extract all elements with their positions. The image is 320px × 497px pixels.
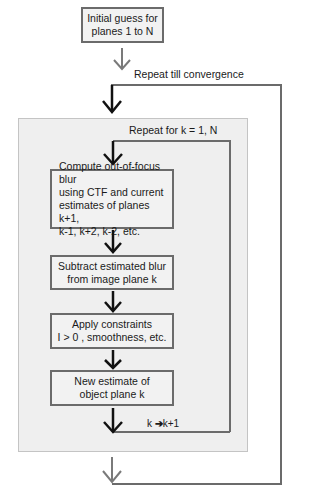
inner-loop-top-line — [113, 140, 230, 142]
step-apply-constraints: Apply constraints I > 0 , smoothness, et… — [50, 313, 174, 349]
step-subtract-blur: Subtract estimated blur from image plane… — [50, 255, 174, 290]
inner-loop-label: Repeat for k = 1, N — [129, 124, 217, 136]
inner-loop-bottom-line — [113, 431, 230, 433]
arrow-down-icon — [102, 85, 124, 115]
arrow-down-icon — [103, 230, 125, 254]
step-text: Subtract estimated blur from image plane… — [58, 260, 166, 286]
arrow-down-icon — [103, 350, 125, 370]
arrow-down-icon — [102, 457, 124, 485]
outer-loop-label: Repeat till convergence — [134, 68, 244, 80]
outer-loop-right-line — [280, 84, 282, 484]
outer-loop-top-line — [111, 84, 282, 86]
step-text: New estimate of object plane k — [74, 375, 149, 401]
increment-label: k ➔k+1 — [147, 418, 179, 429]
right-arrow-icon: ➔ — [155, 418, 163, 429]
increment-next: k+1 — [163, 418, 179, 429]
arrow-down-icon — [103, 291, 125, 313]
arrow-down-icon — [103, 408, 125, 434]
arrow-down-icon — [112, 48, 132, 72]
start-box: Initial guess for planes 1 to N — [81, 7, 164, 43]
step-new-estimate: New estimate of object plane k — [50, 370, 174, 406]
inner-loop-right-line — [229, 140, 231, 432]
increment-k: k — [147, 418, 152, 429]
step-compute-blur: Compute out-of-focus blur using CTF and … — [50, 169, 174, 229]
step-text: Apply constraints I > 0 , smoothness, et… — [58, 318, 167, 344]
start-box-text: Initial guess for planes 1 to N — [87, 12, 158, 38]
step-text: Compute out-of-focus blur using CTF and … — [59, 160, 172, 238]
outer-loop-bottom-line — [112, 483, 282, 485]
